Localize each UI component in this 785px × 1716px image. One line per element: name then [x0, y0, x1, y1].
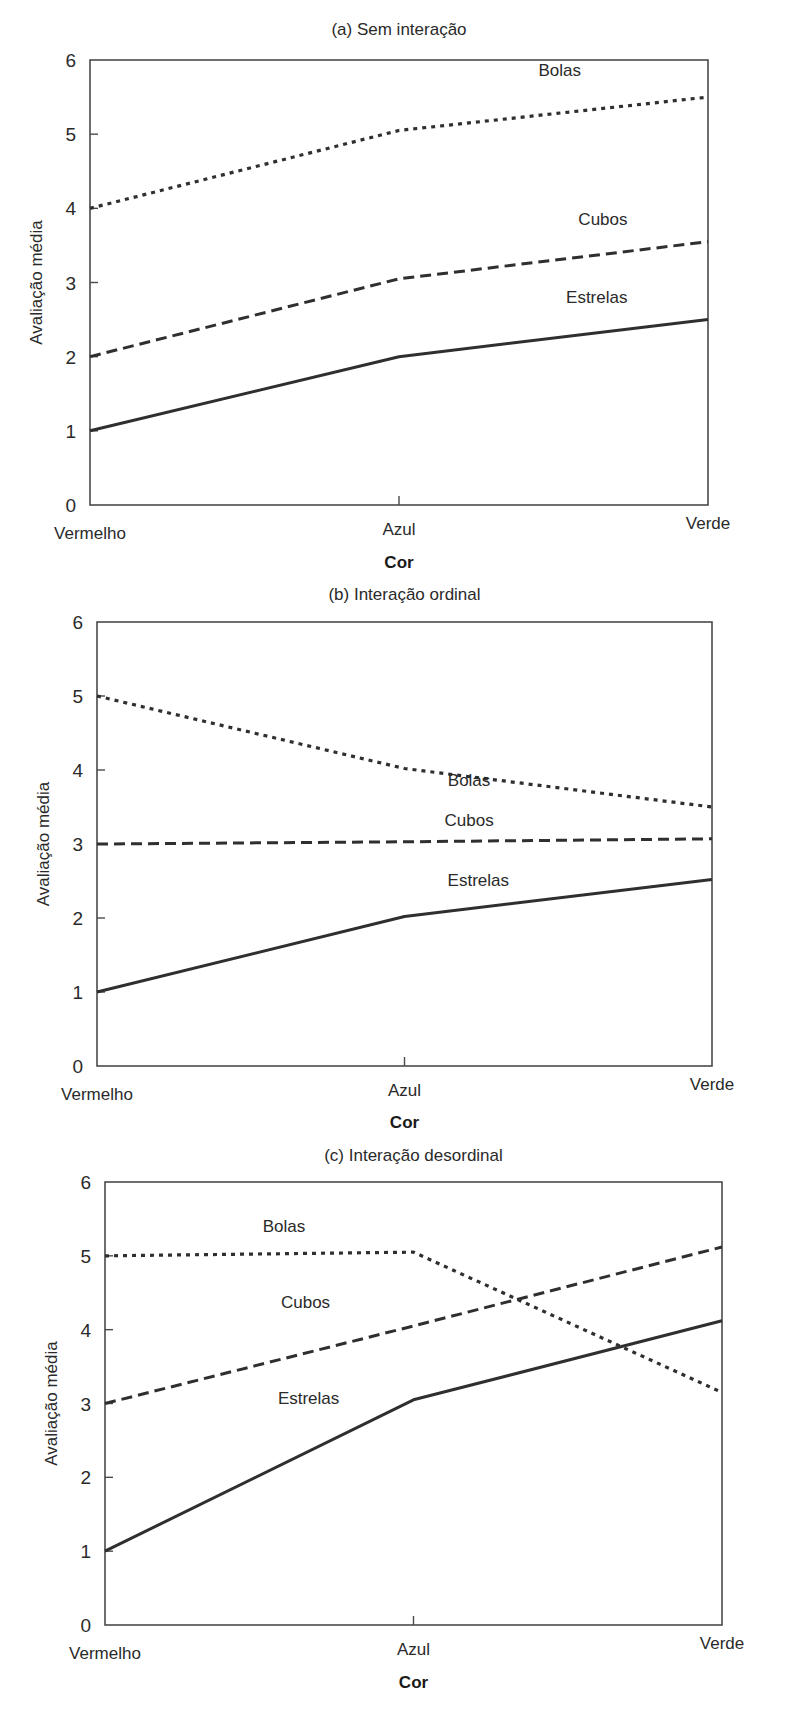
- y-tick-label: 4: [80, 1320, 91, 1341]
- y-axis-title: Avaliação média: [42, 1341, 61, 1466]
- y-tick-label: 2: [72, 908, 83, 929]
- y-tick-label: 0: [65, 495, 76, 516]
- x-category-label: Verde: [686, 514, 730, 533]
- x-axis-title: Cor: [390, 1113, 420, 1132]
- series-label-estrelas: Estrelas: [278, 1389, 339, 1408]
- chart-panel-c: (c) Interação desordinal0123456VermelhoA…: [42, 1146, 744, 1692]
- figure-interaction-plots: (a) Sem interação0123456VermelhoAzulVerd…: [0, 0, 785, 1716]
- y-tick-label: 6: [72, 612, 83, 633]
- y-tick-label: 6: [80, 1172, 91, 1193]
- series-label-cubos: Cubos: [578, 210, 627, 229]
- plot-frame: [105, 1182, 722, 1625]
- x-category-label: Verde: [700, 1634, 744, 1653]
- y-tick-label: 0: [72, 1056, 83, 1077]
- x-category-label: Azul: [397, 1640, 430, 1659]
- y-tick-label: 1: [65, 421, 76, 442]
- y-axis-title: Avaliação média: [34, 781, 53, 906]
- y-tick-label: 6: [65, 50, 76, 71]
- series-line-estrelas: [97, 880, 712, 992]
- y-tick-label: 4: [72, 760, 83, 781]
- x-category-label: Azul: [388, 1081, 421, 1100]
- x-category-label: Verde: [690, 1075, 734, 1094]
- chart-panel-b: (b) Interação ordinal0123456VermelhoAzul…: [34, 585, 734, 1132]
- series-label-cubos: Cubos: [281, 1293, 330, 1312]
- series-label-bolas: Bolas: [538, 61, 581, 80]
- x-axis-title: Cor: [384, 553, 414, 572]
- series-line-cubos: [97, 839, 712, 844]
- y-tick-label: 3: [65, 273, 76, 294]
- y-tick-label: 5: [72, 686, 83, 707]
- series-line-bolas: [105, 1252, 722, 1392]
- y-tick-label: 1: [80, 1541, 91, 1562]
- series-label-bolas: Bolas: [263, 1217, 306, 1236]
- series-label-estrelas: Estrelas: [566, 288, 627, 307]
- plot-frame: [90, 60, 708, 505]
- y-tick-label: 3: [80, 1394, 91, 1415]
- series-line-bolas: [90, 97, 708, 208]
- x-category-label: Azul: [382, 520, 415, 539]
- series-label-cubos: Cubos: [445, 811, 494, 830]
- y-tick-label: 2: [65, 347, 76, 368]
- x-category-label: Vermelho: [61, 1085, 133, 1104]
- series-label-bolas: Bolas: [448, 771, 491, 790]
- series-line-bolas: [97, 696, 712, 807]
- y-tick-label: 5: [65, 124, 76, 145]
- x-axis-title: Cor: [399, 1673, 429, 1692]
- chart-panel-a: (a) Sem interação0123456VermelhoAzulVerd…: [27, 20, 730, 572]
- series-line-estrelas: [90, 320, 708, 431]
- y-tick-label: 1: [72, 982, 83, 1003]
- y-tick-label: 2: [80, 1467, 91, 1488]
- y-tick-label: 4: [65, 198, 76, 219]
- series-line-cubos: [105, 1247, 722, 1404]
- series-label-estrelas: Estrelas: [448, 871, 509, 890]
- y-tick-label: 3: [72, 834, 83, 855]
- x-category-label: Vermelho: [54, 524, 126, 543]
- chart-title: (a) Sem interação: [331, 20, 466, 39]
- x-category-label: Vermelho: [69, 1644, 141, 1663]
- y-axis-title: Avaliação média: [27, 220, 46, 345]
- y-tick-label: 5: [80, 1246, 91, 1267]
- chart-title: (c) Interação desordinal: [324, 1146, 503, 1165]
- series-line-estrelas: [105, 1321, 722, 1551]
- y-tick-label: 0: [80, 1615, 91, 1636]
- chart-title: (b) Interação ordinal: [328, 585, 480, 604]
